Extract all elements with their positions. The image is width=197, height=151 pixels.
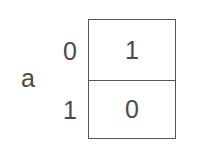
row-label-1: 1 — [60, 98, 80, 123]
cell-value: 1 — [125, 36, 139, 65]
map-cell-0: 1 — [89, 20, 175, 80]
map-cell-1: 0 — [89, 80, 175, 138]
cell-value: 0 — [125, 95, 139, 124]
variable-label: a — [21, 66, 35, 91]
map-grid: 1 0 — [88, 19, 176, 139]
row-label-0: 0 — [60, 39, 80, 64]
